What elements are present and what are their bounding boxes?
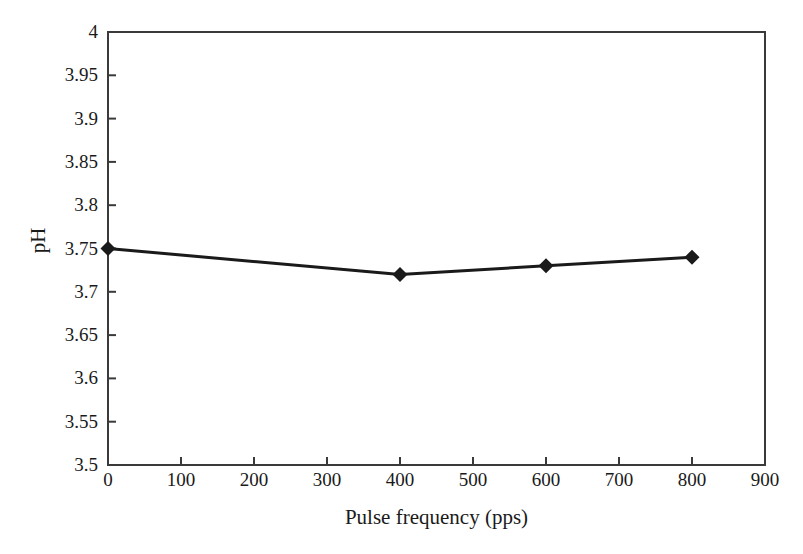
y-tick-label: 3.8 xyxy=(36,195,98,214)
y-tick-label: 3.65 xyxy=(36,325,98,344)
y-tick-label: 3.55 xyxy=(36,412,98,431)
y-tick-label: 3.6 xyxy=(36,368,98,387)
x-tick-label: 800 xyxy=(662,470,722,489)
x-tick-label: 400 xyxy=(370,470,430,489)
x-tick-label: 900 xyxy=(735,470,795,489)
chart-figure: pH Pulse frequency (pps) 3.53.553.63.653… xyxy=(0,0,803,554)
x-axis-title: Pulse frequency (pps) xyxy=(108,505,765,530)
plot-background xyxy=(108,32,765,465)
x-tick-label: 100 xyxy=(151,470,211,489)
y-tick-label: 3.85 xyxy=(36,152,98,171)
y-tick-label: 4 xyxy=(36,22,98,41)
x-tick-label: 0 xyxy=(78,470,138,489)
y-tick-label: 3.9 xyxy=(36,109,98,128)
y-tick-label: 3.7 xyxy=(36,282,98,301)
x-tick-label: 500 xyxy=(443,470,503,489)
x-tick-label: 200 xyxy=(224,470,284,489)
x-tick-label: 700 xyxy=(589,470,649,489)
x-tick-label: 300 xyxy=(297,470,357,489)
y-tick-label: 3.95 xyxy=(36,65,98,84)
y-tick-label: 3.75 xyxy=(36,239,98,258)
x-tick-label: 600 xyxy=(516,470,576,489)
